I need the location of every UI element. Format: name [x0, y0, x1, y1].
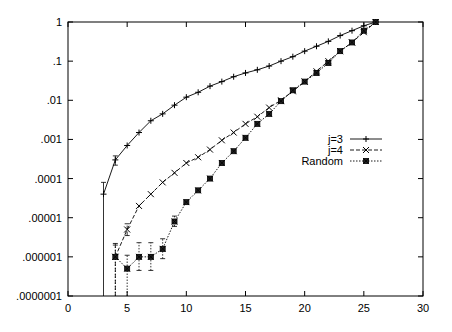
x-tick-label: 25	[358, 302, 370, 314]
data-point-marker	[266, 105, 272, 111]
legend-sample-random	[350, 158, 382, 164]
data-point-marker	[148, 254, 154, 260]
data-point-marker	[183, 160, 189, 166]
data-point-marker	[136, 203, 142, 209]
data-point-marker	[195, 154, 201, 160]
y-tick-label: .01	[47, 94, 62, 106]
y-tick-label: .0000001	[16, 290, 62, 302]
plot-axes	[68, 22, 423, 296]
data-point-marker	[349, 28, 355, 34]
data-point-marker	[361, 28, 367, 34]
y-tick-label: .000001	[22, 251, 62, 263]
legend-sample-j4	[350, 147, 382, 153]
data-point-marker	[148, 191, 154, 197]
data-point-marker	[266, 111, 272, 117]
data-point-marker	[195, 89, 201, 95]
data-point-marker	[112, 254, 118, 260]
data-point-marker	[302, 79, 308, 85]
data-point-marker	[136, 254, 142, 260]
data-point-marker	[266, 63, 272, 69]
y-axis-ticks: 1.1.01.001.0001.00001.000001.0000001	[16, 16, 423, 302]
data-point-marker	[160, 179, 166, 185]
data-point-marker	[243, 121, 249, 127]
data-point-marker	[207, 147, 213, 153]
data-point-marker	[124, 266, 130, 272]
log-scale-line-chart: 051015202530 1.1.01.001.0001.00001.00000…	[0, 0, 452, 332]
data-point-marker	[231, 148, 237, 154]
data-point-marker	[231, 130, 237, 136]
data-point-marker	[172, 219, 178, 225]
data-point-marker	[219, 79, 225, 85]
data-point-marker	[160, 246, 166, 252]
data-point-marker	[195, 187, 201, 193]
data-point-marker	[101, 191, 107, 197]
data-point-marker	[337, 48, 343, 54]
data-point-marker	[314, 70, 320, 76]
y-tick-label: .1	[53, 55, 62, 67]
y-tick-label: .001	[41, 133, 62, 145]
data-point-marker	[243, 70, 249, 76]
plot-frame	[68, 22, 423, 296]
x-tick-label: 10	[180, 302, 192, 314]
data-point-marker	[278, 58, 284, 64]
data-point-marker	[302, 48, 308, 54]
data-point-marker	[183, 199, 189, 205]
data-point-marker	[314, 43, 320, 49]
data-point-marker	[254, 121, 260, 127]
data-point-marker	[290, 87, 296, 93]
legend-sample-j3	[350, 136, 382, 142]
data-point-marker	[254, 114, 260, 120]
data-point-marker	[207, 83, 213, 89]
y-tick-label: .00001	[28, 212, 62, 224]
y-tick-label: .0001	[34, 173, 62, 185]
data-point-marker	[254, 67, 260, 73]
legend: j=3 j=4 Random	[301, 133, 382, 167]
data-point-marker	[325, 38, 331, 44]
data-point-marker	[219, 137, 225, 143]
x-tick-label: 5	[124, 302, 130, 314]
legend-label-random: Random	[301, 155, 343, 167]
data-point-marker	[337, 33, 343, 39]
data-point-marker	[290, 54, 296, 60]
data-point-marker	[243, 135, 249, 141]
data-point-marker	[219, 160, 225, 166]
y-tick-label: 1	[56, 16, 62, 28]
x-tick-label: 30	[417, 302, 429, 314]
data-point-marker	[278, 98, 284, 104]
data-point-marker	[172, 102, 178, 108]
x-axis-ticks: 051015202530	[65, 22, 429, 314]
x-tick-label: 0	[65, 302, 71, 314]
data-point-marker	[160, 111, 166, 117]
data-point-marker	[231, 74, 237, 80]
data-point-marker	[183, 94, 189, 100]
data-point-marker	[172, 170, 178, 176]
data-point-marker	[373, 19, 379, 25]
data-point-marker	[349, 39, 355, 45]
data-point-marker	[325, 60, 331, 66]
legend-item-random: Random	[301, 155, 343, 167]
data-point-marker	[207, 176, 213, 182]
x-tick-label: 20	[299, 302, 311, 314]
x-tick-label: 15	[239, 302, 251, 314]
series-j3-line	[104, 22, 376, 194]
